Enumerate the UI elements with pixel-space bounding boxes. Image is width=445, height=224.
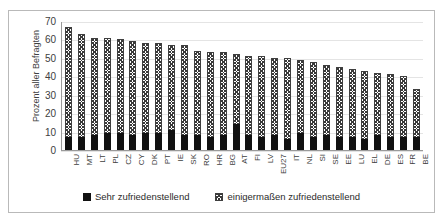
bar-segment-sehr[interactable] xyxy=(129,135,136,150)
bar-segment-einigermassen[interactable] xyxy=(374,73,381,136)
bar-segment-sehr[interactable] xyxy=(91,135,98,150)
bar-stack[interactable] xyxy=(207,52,214,150)
bar-stack[interactable] xyxy=(233,54,240,150)
bar-segment-einigermassen[interactable] xyxy=(181,45,188,135)
bar-segment-einigermassen[interactable] xyxy=(310,62,317,138)
bar-stack[interactable] xyxy=(117,39,124,150)
bar-stack[interactable] xyxy=(374,73,381,150)
bar-column[interactable] xyxy=(139,22,152,150)
bar-column[interactable] xyxy=(242,22,255,150)
bar-segment-sehr[interactable] xyxy=(258,137,265,150)
bar-segment-einigermassen[interactable] xyxy=(245,56,252,135)
bar-stack[interactable] xyxy=(400,76,407,150)
bar-column[interactable] xyxy=(384,22,397,150)
bar-column[interactable] xyxy=(268,22,281,150)
bar-segment-einigermassen[interactable] xyxy=(168,45,175,130)
bar-stack[interactable] xyxy=(336,67,343,150)
bar-column[interactable] xyxy=(178,22,191,150)
bar-segment-sehr[interactable] xyxy=(117,133,124,150)
bar-segment-einigermassen[interactable] xyxy=(413,89,420,137)
bar-column[interactable] xyxy=(281,22,294,150)
bar-column[interactable] xyxy=(217,22,230,150)
bar-segment-sehr[interactable] xyxy=(194,135,201,150)
bar-column[interactable] xyxy=(333,22,346,150)
bar-column[interactable] xyxy=(191,22,204,150)
bar-segment-einigermassen[interactable] xyxy=(129,41,136,135)
bar-stack[interactable] xyxy=(220,52,227,150)
bar-segment-sehr[interactable] xyxy=(168,130,175,150)
bar-column[interactable] xyxy=(126,22,139,150)
bar-segment-einigermassen[interactable] xyxy=(258,56,265,137)
bar-segment-einigermassen[interactable] xyxy=(284,58,291,139)
bar-segment-sehr[interactable] xyxy=(155,133,162,150)
bar-segment-einigermassen[interactable] xyxy=(361,71,368,139)
bar-segment-einigermassen[interactable] xyxy=(207,52,214,137)
bar-stack[interactable] xyxy=(129,41,136,150)
bar-segment-sehr[interactable] xyxy=(104,133,111,150)
bar-segment-sehr[interactable] xyxy=(65,137,72,150)
bar-stack[interactable] xyxy=(310,62,317,150)
bar-segment-sehr[interactable] xyxy=(400,137,407,150)
bar-segment-einigermassen[interactable] xyxy=(65,27,72,138)
bar-segment-sehr[interactable] xyxy=(297,133,304,150)
bar-segment-sehr[interactable] xyxy=(310,137,317,150)
bar-segment-einigermassen[interactable] xyxy=(271,58,278,135)
bar-segment-sehr[interactable] xyxy=(78,137,85,150)
bar-column[interactable] xyxy=(152,22,165,150)
bar-segment-einigermassen[interactable] xyxy=(297,60,304,134)
bar-segment-einigermassen[interactable] xyxy=(400,76,407,137)
bar-column[interactable] xyxy=(410,22,423,150)
bar-segment-sehr[interactable] xyxy=(361,139,368,150)
bar-segment-sehr[interactable] xyxy=(271,135,278,150)
bar-stack[interactable] xyxy=(194,51,201,151)
bar-stack[interactable] xyxy=(297,60,304,150)
bar-segment-sehr[interactable] xyxy=(387,137,394,150)
bar-segment-sehr[interactable] xyxy=(336,137,343,150)
bar-segment-sehr[interactable] xyxy=(284,139,291,150)
bar-stack[interactable] xyxy=(91,38,98,150)
bar-column[interactable] xyxy=(358,22,371,150)
bar-segment-einigermassen[interactable] xyxy=(233,54,240,124)
bar-stack[interactable] xyxy=(323,65,330,150)
bar-stack[interactable] xyxy=(65,27,72,150)
bar-column[interactable] xyxy=(371,22,384,150)
bar-column[interactable] xyxy=(88,22,101,150)
bar-segment-sehr[interactable] xyxy=(220,135,227,150)
bar-column[interactable] xyxy=(101,22,114,150)
bar-stack[interactable] xyxy=(142,43,149,150)
bar-segment-sehr[interactable] xyxy=(245,135,252,150)
bar-segment-einigermassen[interactable] xyxy=(194,51,201,136)
bar-segment-einigermassen[interactable] xyxy=(142,43,149,133)
bar-stack[interactable] xyxy=(284,58,291,150)
bar-segment-einigermassen[interactable] xyxy=(387,74,394,137)
bar-segment-einigermassen[interactable] xyxy=(323,65,330,135)
bar-stack[interactable] xyxy=(78,34,85,150)
bar-segment-sehr[interactable] xyxy=(374,135,381,150)
bar-segment-sehr[interactable] xyxy=(181,135,188,150)
bar-stack[interactable] xyxy=(349,69,356,150)
bar-column[interactable] xyxy=(294,22,307,150)
bar-column[interactable] xyxy=(204,22,217,150)
bar-segment-einigermassen[interactable] xyxy=(220,52,227,135)
bar-segment-sehr[interactable] xyxy=(323,135,330,150)
bar-column[interactable] xyxy=(75,22,88,150)
bar-segment-einigermassen[interactable] xyxy=(336,67,343,137)
bar-column[interactable] xyxy=(165,22,178,150)
bar-stack[interactable] xyxy=(245,56,252,150)
bar-stack[interactable] xyxy=(387,74,394,150)
bar-stack[interactable] xyxy=(413,89,420,150)
bar-segment-einigermassen[interactable] xyxy=(155,43,162,133)
bar-column[interactable] xyxy=(320,22,333,150)
bar-segment-sehr[interactable] xyxy=(233,124,240,150)
bar-column[interactable] xyxy=(346,22,359,150)
bar-column[interactable] xyxy=(397,22,410,150)
bar-segment-sehr[interactable] xyxy=(207,137,214,150)
bar-stack[interactable] xyxy=(361,71,368,150)
bar-column[interactable] xyxy=(307,22,320,150)
bar-stack[interactable] xyxy=(258,56,265,150)
bar-stack[interactable] xyxy=(271,58,278,150)
bar-segment-einigermassen[interactable] xyxy=(117,39,124,133)
bar-segment-sehr[interactable] xyxy=(413,137,420,150)
bar-stack[interactable] xyxy=(181,45,188,150)
bar-column[interactable] xyxy=(62,22,75,150)
